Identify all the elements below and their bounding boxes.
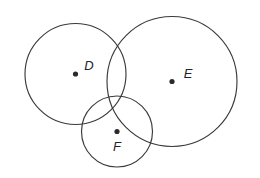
circles-diagram-svg: D E F [0,0,260,178]
circle-d-label: D [84,58,93,73]
circle-d-center-dot [73,71,78,76]
circle-e-label: E [184,66,193,81]
diagram-canvas: D E F [0,0,260,178]
circle-f-label: F [113,139,122,154]
circle-f-center-dot [114,129,119,134]
circle-e-center-dot [169,79,174,84]
